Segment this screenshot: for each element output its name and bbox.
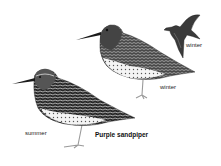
- flying-bird-winter: [164, 15, 200, 58]
- label-winter-flying: winter: [186, 42, 202, 48]
- label-summer: summer: [25, 130, 47, 136]
- species-caption: Purple sandpiper: [95, 131, 148, 138]
- label-winter-standing: winter: [160, 84, 176, 90]
- illustration: [0, 0, 221, 166]
